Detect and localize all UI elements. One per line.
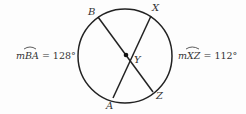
arc-name-xz: XZ <box>186 50 201 61</box>
measure-prefix: m <box>178 50 187 61</box>
equals-sign: = <box>200 50 214 61</box>
label-b: B <box>87 6 95 17</box>
center-point <box>124 53 129 58</box>
equals-sign: = <box>39 50 53 61</box>
arc-value-xz: 112° <box>214 50 237 61</box>
circle-diagram: B X Y A Z mBA = 128° mXZ = 112° <box>0 0 246 114</box>
arc-name-ba: BA <box>24 50 39 61</box>
svg-text:mBA = 128°: mBA = 128° <box>16 50 76 61</box>
label-x: X <box>151 2 160 13</box>
chord-xa <box>113 16 151 98</box>
arc-measure-ba: mBA = 128° <box>16 47 76 61</box>
measure-prefix: m <box>16 50 25 61</box>
label-z: Z <box>155 90 164 101</box>
arc-symbol <box>24 47 36 49</box>
label-y: Y <box>134 54 142 65</box>
label-a: A <box>105 100 113 111</box>
arc-symbol <box>186 47 199 49</box>
svg-text:mXZ = 112°: mXZ = 112° <box>178 50 237 61</box>
arc-measure-xz: mXZ = 112° <box>178 47 237 61</box>
arc-value-ba: 128° <box>53 50 76 61</box>
